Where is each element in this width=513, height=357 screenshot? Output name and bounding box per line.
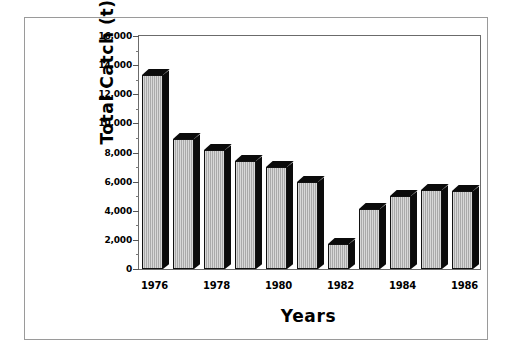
bar-side-shadow [287, 162, 293, 269]
y-tick-mark [133, 153, 139, 154]
y-tick-mark [133, 182, 139, 183]
y-minor-tick-mark [136, 51, 139, 52]
y-tick-label: 16,000 [98, 31, 132, 41]
y-axis-title: Total Catch (t) [97, 0, 117, 172]
y-tick-label: 0 [126, 264, 132, 274]
bar-face [390, 196, 411, 269]
y-tick-label: 8,000 [105, 148, 132, 158]
y-tick-label: 14,000 [98, 60, 132, 70]
y-minor-tick-mark [136, 138, 139, 139]
y-tick-label: 4,000 [105, 206, 132, 216]
y-tick-mark [133, 36, 139, 37]
y-tick-mark [133, 94, 139, 95]
bar [173, 139, 194, 269]
x-axis-title: Years [138, 306, 479, 326]
bar-side-shadow [411, 191, 417, 269]
bar-face [421, 190, 442, 269]
y-tick-label: 6,000 [105, 177, 132, 187]
y-minor-tick-mark [136, 109, 139, 110]
bar-face [266, 167, 287, 269]
bar [452, 191, 473, 269]
bar-face [328, 244, 349, 269]
bar [328, 244, 349, 269]
x-tick-label: 1976 [141, 280, 168, 291]
bar-side-shadow [318, 178, 324, 269]
bar-face [142, 75, 163, 269]
y-tick-label: 2,000 [105, 235, 132, 245]
bar-side-shadow [256, 157, 262, 269]
y-minor-tick-mark [136, 254, 139, 255]
x-tick-label: 1980 [265, 280, 292, 291]
y-minor-tick-mark [136, 80, 139, 81]
y-tick-label: 12,000 [98, 89, 132, 99]
y-tick-mark [133, 211, 139, 212]
y-tick-mark [133, 240, 139, 241]
bar [390, 196, 411, 269]
bar [421, 190, 442, 269]
bar-face [359, 209, 380, 269]
y-minor-tick-mark [136, 167, 139, 168]
bar-side-shadow [473, 186, 479, 269]
y-minor-tick-mark [136, 196, 139, 197]
y-minor-tick-mark [136, 225, 139, 226]
x-tick-label: 1982 [327, 280, 354, 291]
y-tick-label: 10,000 [98, 118, 132, 128]
y-tick-mark [133, 65, 139, 66]
plot-area: 16,00014,00012,00010,0008,0006,0004,0002… [138, 35, 481, 270]
bar-face [235, 161, 256, 269]
chart-figure-frame: Total Catch (t) 16,00014,00012,00010,000… [24, 17, 488, 340]
bar [142, 75, 163, 269]
bar-side-shadow [225, 145, 231, 269]
bar [359, 209, 380, 269]
x-tick-label: 1986 [451, 280, 478, 291]
y-tick-mark [133, 123, 139, 124]
bar-side-shadow [349, 239, 355, 269]
bar-face [173, 139, 194, 269]
bar-face [452, 191, 473, 269]
bar-side-shadow [163, 71, 169, 269]
bar [235, 161, 256, 269]
bar [204, 150, 225, 269]
bar [266, 167, 287, 269]
bar-face [204, 150, 225, 269]
x-tick-label: 1978 [203, 280, 230, 291]
x-tick-label: 1984 [389, 280, 416, 291]
bar [297, 182, 318, 269]
bar-side-shadow [194, 135, 200, 269]
bar-side-shadow [380, 205, 386, 269]
bar-side-shadow [442, 186, 448, 269]
y-tick-mark [133, 269, 139, 270]
bar-face [297, 182, 318, 269]
